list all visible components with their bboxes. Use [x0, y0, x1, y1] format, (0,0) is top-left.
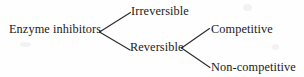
node-irreversible: Irreversible: [131, 5, 189, 18]
scan-artifact-speck: [272, 44, 279, 50]
scan-artifact-speck: [243, 4, 252, 11]
scan-artifact-speck: [20, 42, 31, 47]
branch-line-reversible-to-competitive: [182, 29, 210, 49]
enzyme-inhibitors-tree-diagram: Enzyme inhibitors Irreversible Reversibl…: [0, 0, 304, 77]
node-reversible: Reversible: [130, 41, 184, 54]
branch-line-root-to-irreversible: [100, 13, 131, 33]
branch-line-reversible-to-non-competitive: [182, 48, 211, 68]
node-competitive: Competitive: [211, 23, 273, 36]
branch-line-root-to-reversible: [100, 32, 131, 50]
node-non-competitive: Non-competitive: [211, 61, 296, 74]
node-enzyme-inhibitors: Enzyme inhibitors: [9, 23, 101, 36]
